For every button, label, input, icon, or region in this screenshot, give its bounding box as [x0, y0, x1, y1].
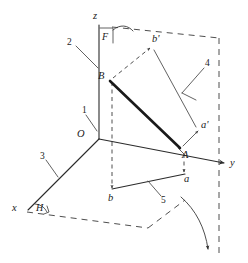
- plane-label-h: H: [35, 202, 44, 213]
- point-label-a-lower: a: [184, 173, 189, 184]
- vertical-plane-top-edge: [112, 27, 219, 38]
- callout-label-5: 5: [161, 195, 166, 205]
- line-segment-ab: [110, 81, 180, 148]
- technical-drawing-figure: z y x O F H B A b' a' b a 1 2 3 4 5: [0, 0, 248, 263]
- origin-label: O: [77, 128, 85, 139]
- horizontal-plane-right-edge: [148, 200, 185, 228]
- axis-label-x: x: [11, 202, 17, 213]
- callout-label-1: 1: [82, 105, 87, 115]
- callout-3-leader: [46, 160, 58, 177]
- plane-label-f: F: [101, 31, 109, 42]
- horizontal-plane-angle-tick: [44, 206, 49, 214]
- horizontal-plane-front-edge: [27, 212, 148, 228]
- callout-4-leader-branch: [182, 93, 196, 100]
- callout-label-3: 3: [40, 151, 45, 161]
- point-label-b: B: [98, 70, 105, 81]
- callout-label-4: 4: [205, 58, 210, 68]
- axis-label-z: z: [92, 10, 97, 21]
- point-label-b-prime: b': [152, 33, 160, 44]
- callout-2-leader: [76, 46, 98, 68]
- callout-4-leader-stem: [182, 68, 204, 93]
- axis-label-y: y: [229, 157, 235, 168]
- projector-b-to-bprime: [113, 48, 150, 78]
- callout-label-2: 2: [67, 37, 72, 47]
- callout-5-leader: [148, 181, 161, 196]
- y-axis: [99, 139, 224, 163]
- point-label-a: A: [181, 149, 189, 160]
- plane-rotation-arc: [181, 197, 208, 249]
- projector-a-to-aprime: [183, 131, 198, 146]
- callout-1-leader: [86, 115, 97, 131]
- projector-ray-bprime: [154, 50, 196, 127]
- x-axis: [28, 139, 99, 210]
- projection-diagram-svg: z y x O F H B A b' a' b a 1 2 3 4 5: [0, 0, 248, 263]
- point-label-a-prime: a': [201, 119, 209, 130]
- point-label-b-lower: b: [108, 192, 113, 203]
